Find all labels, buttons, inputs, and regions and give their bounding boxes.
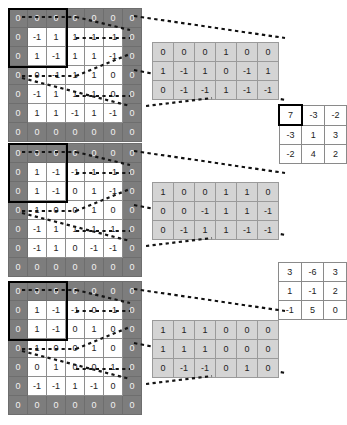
matrix-cell: 0 <box>85 123 104 142</box>
matrix-cell: -1 <box>237 62 258 81</box>
matrix-row: 011-11-10 <box>9 104 142 123</box>
matrix-cell: 0 <box>47 396 66 415</box>
matrix-cell: 1 <box>216 81 237 100</box>
matrix-cell: 1 <box>47 220 66 239</box>
matrix-cell: 0 <box>123 85 142 104</box>
matrix-cell: 0 <box>28 123 47 142</box>
matrix-cell: 0 <box>28 258 47 277</box>
matrix-cell: 0 <box>66 123 85 142</box>
matrix-cell: -1 <box>279 301 302 320</box>
matrix-cell: 0 <box>9 377 28 396</box>
matrix-cell: 0 <box>123 201 142 220</box>
matrix-cell: 0 <box>85 301 104 320</box>
matrix-cell: 0 <box>123 47 142 66</box>
matrix-cell: 0 <box>85 282 104 301</box>
matrix-cell: 0 <box>28 396 47 415</box>
matrix-cell: 0 <box>9 258 28 277</box>
matrix-cell: 7 <box>279 105 302 125</box>
matrix-cell: 0 <box>123 66 142 85</box>
matrix-cell: 1 <box>104 220 123 239</box>
matrix-cell: 0 <box>66 239 85 258</box>
matrix-cell: 1 <box>216 202 237 221</box>
matrix-cell: -1 <box>195 202 216 221</box>
matrix-cell: 0 <box>324 301 347 320</box>
matrix-cell: 0 <box>123 258 142 277</box>
matrix-cell: 1 <box>237 202 258 221</box>
matrix-cell: 1 <box>85 47 104 66</box>
matrix-cell: 0 <box>237 43 258 62</box>
matrix-cell: -1 <box>258 81 279 100</box>
matrix-cell: 0 <box>123 220 142 239</box>
matrix-cell: 1 <box>66 85 85 104</box>
matrix-cell: 5 <box>301 301 324 320</box>
matrix-cell: 1 <box>279 282 302 301</box>
matrix-row: 0-111110 <box>9 220 142 239</box>
matrix-cell: -1 <box>195 359 216 378</box>
matrix-cell: 1 <box>85 320 104 339</box>
matrix-cell: 0 <box>104 123 123 142</box>
matrix-row: 0-1-1 <box>153 81 216 100</box>
matrix-cell: 0 <box>123 396 142 415</box>
matrix-cell: 1 <box>66 66 85 85</box>
matrix-row: -313 <box>279 125 347 145</box>
kernel-matrix-2: 11011-11-1-1 <box>215 182 279 240</box>
matrix-cell: -1 <box>47 182 66 201</box>
matrix-cell: 0 <box>9 282 28 301</box>
matrix-cell: 1 <box>85 28 104 47</box>
matrix-cell: 1 <box>28 320 47 339</box>
matrix-cell: -1 <box>195 81 216 100</box>
matrix-cell: 0 <box>28 9 47 28</box>
matrix-cell: 0 <box>237 321 258 340</box>
matrix-row: 0-11 <box>153 221 216 240</box>
matrix-cell: -1 <box>104 28 123 47</box>
matrix-cell: 0 <box>195 43 216 62</box>
matrix-cell: 1 <box>28 47 47 66</box>
matrix-cell: 0 <box>258 43 279 62</box>
matrix-cell: -1 <box>28 239 47 258</box>
matrix-cell: 0 <box>153 81 174 100</box>
matrix-cell: 1 <box>153 340 174 359</box>
matrix-cell: 0 <box>153 43 174 62</box>
matrix-cell: 1 <box>153 321 174 340</box>
matrix-cell: 0 <box>123 123 142 142</box>
padded-input-grid-1: 00000000-1111-1001-111-1000-111000-11110… <box>8 8 142 142</box>
matrix-row: 100 <box>153 183 216 202</box>
matrix-cell: -1 <box>47 320 66 339</box>
matrix-row: 0-1-11-100 <box>9 377 142 396</box>
matrix-cell: 0 <box>123 163 142 182</box>
matrix-cell: 1 <box>66 220 85 239</box>
result-matrix-2: 3-631-12-150 <box>278 262 347 320</box>
matrix-cell: -1 <box>66 104 85 123</box>
matrix-row: 1-11 <box>153 62 216 81</box>
matrix-cell: -3 <box>302 105 325 125</box>
matrix-cell: 0 <box>85 358 104 377</box>
matrix-row: 0010010 <box>9 358 142 377</box>
matrix-cell: 0 <box>123 104 142 123</box>
matrix-cell: 0 <box>174 202 195 221</box>
matrix-row: 000 <box>216 340 279 359</box>
matrix-cell: 0 <box>9 182 28 201</box>
matrix-cell: 0 <box>258 183 279 202</box>
convolution-figure: 00000000-1111-1001-111-1000-111000-11110… <box>0 0 347 425</box>
matrix-cell: -1 <box>104 47 123 66</box>
matrix-row: -150 <box>279 301 347 320</box>
matrix-cell: 0 <box>66 258 85 277</box>
matrix-cell: 1 <box>28 104 47 123</box>
matrix-cell: 0 <box>66 339 85 358</box>
matrix-cell: 1 <box>216 43 237 62</box>
matrix-cell: 0 <box>216 359 237 378</box>
matrix-cell: 1 <box>85 339 104 358</box>
matrix-cell: 0 <box>104 201 123 220</box>
matrix-cell: 1 <box>195 221 216 240</box>
matrix-cell: 0 <box>104 396 123 415</box>
matrix-row: 01-101-10 <box>9 182 142 201</box>
matrix-row: 11-1 <box>216 202 279 221</box>
matrix-cell: 1 <box>47 104 66 123</box>
matrix-cell: -1 <box>174 62 195 81</box>
matrix-cell: -3 <box>279 125 302 145</box>
matrix-cell: 1 <box>174 340 195 359</box>
matrix-row: 00-11100 <box>9 66 142 85</box>
matrix-cell: 0 <box>9 104 28 123</box>
kernel-matrix-3: 000000010 <box>215 320 279 378</box>
matrix-cell: 0 <box>153 221 174 240</box>
